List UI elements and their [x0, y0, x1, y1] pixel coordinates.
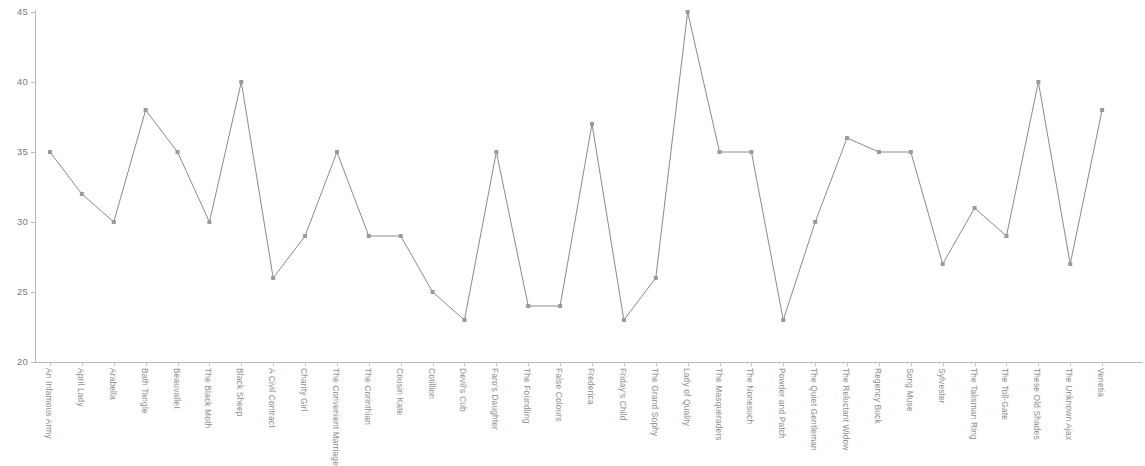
- x-tick-mark: [464, 362, 465, 366]
- x-tick-label: Black Sheep: [235, 368, 245, 417]
- data-point-marker: [1036, 80, 1040, 84]
- y-tick-label: 20: [2, 356, 28, 367]
- x-tick-mark: [656, 362, 657, 366]
- x-tick-label: False Colours: [554, 368, 564, 422]
- data-point-marker: [526, 304, 530, 308]
- x-tick-mark: [943, 362, 944, 366]
- y-tick-mark: [31, 292, 35, 293]
- x-axis-line: [35, 362, 1143, 363]
- x-tick-mark: [178, 362, 179, 366]
- x-tick-mark: [82, 362, 83, 366]
- x-tick-mark: [433, 362, 434, 366]
- x-tick-label: Cousin Kate: [395, 368, 405, 415]
- x-tick-label: Powder and Patch: [777, 368, 787, 439]
- x-tick-label: Devil's Cub: [458, 368, 468, 412]
- x-tick-label: Faro's Daughter: [490, 368, 500, 430]
- x-tick-mark: [879, 362, 880, 366]
- x-tick-mark: [975, 362, 976, 366]
- x-tick-mark: [720, 362, 721, 366]
- data-point-marker: [48, 150, 52, 154]
- x-tick-mark: [1070, 362, 1071, 366]
- data-point-marker: [431, 290, 435, 294]
- x-tick-mark: [1006, 362, 1007, 366]
- data-point-marker: [303, 234, 307, 238]
- x-tick-mark: [305, 362, 306, 366]
- data-point-marker: [686, 10, 690, 14]
- y-tick-label: 40: [2, 76, 28, 87]
- y-tick-mark: [31, 12, 35, 13]
- x-tick-label: The Talisman Ring: [969, 368, 979, 440]
- data-point-marker: [1100, 108, 1104, 112]
- x-tick-label: The Nonesuch: [745, 368, 755, 424]
- y-tick-label: 30: [2, 216, 28, 227]
- x-tick-mark: [273, 362, 274, 366]
- x-tick-mark: [241, 362, 242, 366]
- x-tick-label: Charity Girl: [299, 368, 309, 412]
- x-tick-mark: [337, 362, 338, 366]
- x-tick-mark: [847, 362, 848, 366]
- x-tick-label: The Grand Sophy: [650, 368, 660, 436]
- x-tick-mark: [401, 362, 402, 366]
- data-point-marker: [845, 136, 849, 140]
- x-tick-mark: [50, 362, 51, 366]
- x-tick-label: Lady of Quality: [682, 368, 692, 426]
- data-point-marker: [749, 150, 753, 154]
- data-point-marker: [271, 276, 275, 280]
- x-tick-mark: [1102, 362, 1103, 366]
- x-tick-mark: [146, 362, 147, 366]
- data-point-marker: [207, 220, 211, 224]
- x-tick-label: The Quiet Gentleman: [809, 368, 819, 451]
- x-tick-label: Frederica: [586, 368, 596, 405]
- x-tick-label: Bath Tangle: [140, 368, 150, 414]
- x-tick-label: The Toll-Gate: [1000, 368, 1010, 420]
- data-point-marker: [590, 122, 594, 126]
- x-tick-mark: [528, 362, 529, 366]
- x-tick-label: Song Muse: [905, 368, 915, 412]
- x-tick-label: These Old Shades: [1032, 368, 1042, 440]
- data-point-marker: [80, 192, 84, 196]
- data-point-marker: [813, 220, 817, 224]
- y-tick-label: 35: [2, 146, 28, 157]
- x-tick-mark: [624, 362, 625, 366]
- x-tick-label: An Infamous Army: [44, 368, 54, 439]
- data-point-marker: [558, 304, 562, 308]
- x-tick-mark: [592, 362, 593, 366]
- x-tick-label: A Civil Contract: [267, 368, 277, 428]
- x-tick-label: Arabella: [108, 368, 118, 400]
- x-tick-mark: [751, 362, 752, 366]
- x-tick-mark: [783, 362, 784, 366]
- x-tick-mark: [369, 362, 370, 366]
- data-point-marker: [112, 220, 116, 224]
- data-point-marker: [622, 318, 626, 322]
- data-point-marker: [973, 206, 977, 210]
- x-tick-label: The Unknown Ajax: [1064, 368, 1074, 440]
- x-tick-label: The Masqueraders: [714, 368, 724, 441]
- x-tick-mark: [496, 362, 497, 366]
- x-tick-label: Regency Buck: [873, 368, 883, 424]
- x-tick-label: Cotillion: [427, 368, 437, 399]
- x-tick-label: The Corinthian: [363, 368, 373, 425]
- data-point-marker: [462, 318, 466, 322]
- x-tick-mark: [688, 362, 689, 366]
- y-tick-mark: [31, 362, 35, 363]
- data-point-marker: [909, 150, 913, 154]
- y-tick-label: 25: [2, 286, 28, 297]
- x-tick-mark: [911, 362, 912, 366]
- x-tick-label: Friday's Child: [618, 368, 628, 421]
- x-tick-label: April Lady: [76, 368, 86, 407]
- x-tick-label: The Black Moth: [203, 368, 213, 428]
- data-point-marker: [781, 318, 785, 322]
- x-tick-label: Sylvester: [937, 368, 947, 404]
- x-tick-label: The Reluctant Widow: [841, 368, 851, 450]
- y-tick-mark: [31, 222, 35, 223]
- data-point-marker: [239, 80, 243, 84]
- y-tick-mark: [31, 82, 35, 83]
- x-tick-label: The Foundling: [522, 368, 532, 424]
- y-tick-label: 45: [2, 6, 28, 17]
- data-point-marker: [144, 108, 148, 112]
- x-tick-label: The Convenient Marriage: [331, 368, 341, 466]
- x-tick-mark: [114, 362, 115, 366]
- data-point-marker: [176, 150, 180, 154]
- y-tick-mark: [31, 152, 35, 153]
